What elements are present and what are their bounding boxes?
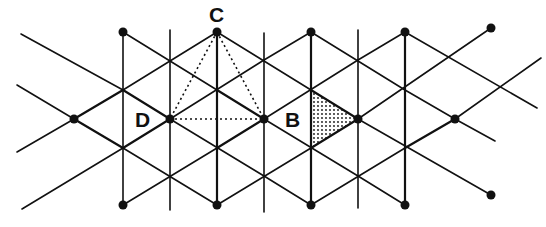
node [307,28,316,37]
node-d [166,115,175,124]
node [260,115,269,124]
label-c: C [209,3,224,26]
node [451,115,460,124]
node [401,28,410,37]
node [307,201,316,210]
node [119,28,128,37]
label-d: D [135,108,150,131]
lattice-nodes [70,24,496,210]
node [487,191,496,200]
node [70,115,79,124]
node-c [213,28,222,37]
shaded-triangle [311,90,358,148]
node [354,115,363,124]
label-b: B [285,108,300,131]
lattice-diagram: C D B [0,0,546,227]
diagonal-lines-ascending [17,28,541,209]
node [213,201,222,210]
node [401,201,410,210]
node [487,24,496,33]
node [119,201,128,210]
